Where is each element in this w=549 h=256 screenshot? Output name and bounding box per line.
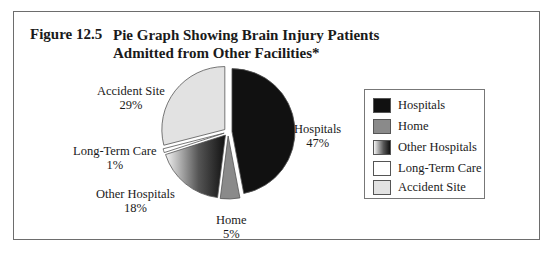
legend-item-hospitals: Hospitals bbox=[373, 97, 445, 114]
slice-accident-site bbox=[162, 67, 225, 146]
legend-swatch bbox=[373, 98, 391, 113]
chart-legend: Hospitals Home Other Hospitals Long-Term… bbox=[364, 89, 485, 199]
legend-label: Other Hospitals bbox=[398, 140, 477, 155]
label-name: Hospitals bbox=[294, 122, 341, 136]
label-other-hospitals: Other Hospitals 18% bbox=[96, 187, 175, 215]
label-name: Other Hospitals bbox=[96, 187, 175, 201]
label-pct: 1% bbox=[73, 158, 156, 172]
legend-item-other-hospitals: Other Hospitals bbox=[373, 139, 477, 156]
label-pct: 29% bbox=[97, 98, 165, 112]
label-pct: 18% bbox=[96, 201, 175, 215]
label-accident-site: Accident Site 29% bbox=[97, 84, 165, 112]
label-name: Long-Term Care bbox=[73, 144, 156, 158]
legend-swatch bbox=[373, 180, 391, 195]
label-hospitals: Hospitals 47% bbox=[294, 122, 341, 150]
legend-item-long-term-care: Long-Term Care bbox=[373, 160, 481, 177]
label-home: Home 5% bbox=[216, 213, 247, 241]
label-name: Accident Site bbox=[97, 84, 165, 98]
legend-label: Accident Site bbox=[398, 180, 466, 195]
legend-label: Home bbox=[398, 119, 429, 134]
label-long-term-care: Long-Term Care 1% bbox=[73, 144, 156, 172]
legend-label: Long-Term Care bbox=[398, 161, 481, 176]
label-pct: 5% bbox=[216, 227, 247, 241]
label-pct: 47% bbox=[294, 136, 341, 150]
legend-swatch bbox=[373, 161, 391, 176]
legend-item-accident-site: Accident Site bbox=[373, 179, 466, 196]
label-name: Home bbox=[216, 213, 247, 227]
legend-swatch bbox=[373, 140, 391, 155]
legend-swatch bbox=[373, 119, 391, 134]
slice-hospitals bbox=[232, 69, 295, 194]
legend-item-home: Home bbox=[373, 118, 429, 135]
legend-label: Hospitals bbox=[398, 98, 445, 113]
